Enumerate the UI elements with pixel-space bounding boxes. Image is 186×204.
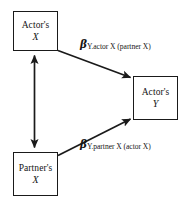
beta-subscript-actor: Y.actor X (partner X): [87, 42, 151, 51]
node-actor-x-variable: X: [32, 31, 38, 42]
node-partner-x: Partner's X: [13, 152, 58, 196]
arrow-actor-x-to-actor-y: [58, 51, 131, 78]
label-partner-effect: βY.partner X (actor X): [80, 138, 151, 151]
label-actor-effect: βY.actor X (partner X): [80, 38, 151, 51]
node-partner-x-owner: Partner's: [19, 163, 53, 174]
node-actor-y-variable: Y: [153, 98, 159, 109]
beta-symbol-partner: β: [80, 138, 87, 150]
node-actor-x: Actor's X: [13, 11, 58, 51]
node-actor-y: Actor's Y: [133, 76, 178, 120]
beta-subscript-partner: Y.partner X (actor X): [87, 142, 151, 151]
beta-symbol-actor: β: [80, 38, 87, 50]
node-actor-x-owner: Actor's: [22, 20, 50, 31]
node-partner-x-variable: X: [32, 174, 38, 185]
path-diagram: Actor's X Partner's X Actor's Y βY.actor…: [0, 0, 186, 204]
node-actor-y-owner: Actor's: [142, 87, 170, 98]
